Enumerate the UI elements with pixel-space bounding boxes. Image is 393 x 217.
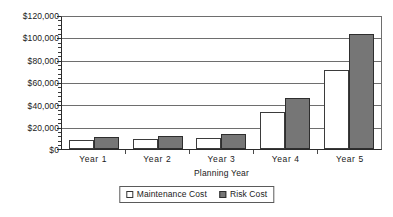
y-axis-tick-label: $80,000 <box>1 57 59 66</box>
legend-entry-maintenance-cost[interactable]: Maintenance Cost <box>126 189 207 199</box>
y-axis-tick-label: $60,000 <box>1 79 59 88</box>
bar-risk-year-4[interactable] <box>285 98 310 149</box>
x-axis-tick-label-year-1: Year 1 <box>61 154 125 165</box>
bar-risk-year-1[interactable] <box>94 137 119 149</box>
legend-entry-risk-cost[interactable]: Risk Cost <box>219 189 267 199</box>
y-axis-tick-label: $100,000 <box>1 34 59 43</box>
bar-groups <box>62 17 381 149</box>
bar-group-year-4 <box>253 17 317 149</box>
x-axis-title: Planning Year <box>61 168 382 179</box>
bar-risk-year-3[interactable] <box>221 134 246 149</box>
bar-group-year-5 <box>317 17 381 149</box>
bar-group-year-3 <box>190 17 254 149</box>
bar-maintenance-year-4[interactable] <box>260 112 285 149</box>
x-axis-tick-label-year-3: Year 3 <box>189 154 253 165</box>
y-axis-tick-labels: $120,000 $100,000 $80,000 $60,000 $40,00… <box>0 0 59 217</box>
bar-maintenance-year-3[interactable] <box>196 138 221 149</box>
bar-maintenance-year-2[interactable] <box>133 139 158 149</box>
legend-swatch-icon-risk-cost <box>219 191 226 198</box>
y-axis-tick-label: $0 <box>1 146 59 155</box>
bar-group-year-2 <box>126 17 190 149</box>
bar-chart: $120,000 $100,000 $80,000 $60,000 $40,00… <box>0 0 393 217</box>
bar-group-year-1 <box>62 17 126 149</box>
legend: Maintenance Cost Risk Cost <box>119 186 274 203</box>
y-axis-tick-label: $40,000 <box>1 102 59 111</box>
plot-area <box>61 16 382 150</box>
x-axis-tick-label-year-5: Year 5 <box>318 154 382 165</box>
y-axis-tick-label: $20,000 <box>1 124 59 133</box>
bar-risk-year-2[interactable] <box>158 136 183 149</box>
bar-maintenance-year-1[interactable] <box>69 140 94 149</box>
y-axis-tick-label: $120,000 <box>1 12 59 21</box>
bar-maintenance-year-5[interactable] <box>324 70 349 149</box>
bar-risk-year-5[interactable] <box>349 34 374 149</box>
legend-swatch-icon-maintenance-cost <box>126 191 133 198</box>
x-axis-tick-labels: Year 1 Year 2 Year 3 Year 4 Year 5 <box>61 154 382 165</box>
x-axis-tick-label-year-2: Year 2 <box>125 154 189 165</box>
legend-label-risk-cost: Risk Cost <box>230 189 267 199</box>
legend-label-maintenance-cost: Maintenance Cost <box>137 189 207 199</box>
x-axis-tick-label-year-4: Year 4 <box>254 154 318 165</box>
